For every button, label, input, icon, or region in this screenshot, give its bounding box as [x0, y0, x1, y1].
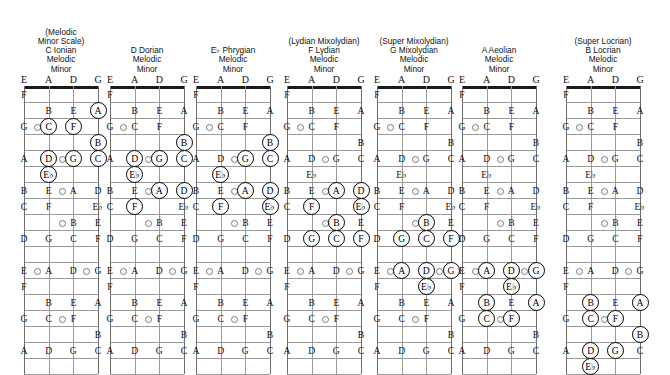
- note-G-f15: G: [279, 313, 295, 324]
- scale-note-label-G-f17: G: [606, 345, 624, 356]
- scale-note-label-Eb-f18: E♭: [582, 361, 600, 372]
- note-E-f2: E: [328, 105, 344, 116]
- scale-note-label-A-f14: A: [631, 297, 649, 308]
- note-C-f15: C: [394, 313, 410, 324]
- note-B-f2: B: [304, 105, 320, 116]
- open-string-label-E: E: [370, 74, 384, 85]
- fret-line-11: [566, 262, 640, 263]
- open-string-label-E: E: [189, 74, 203, 85]
- note-A-f17: A: [188, 345, 204, 356]
- scale-note-label-G-f12: G: [442, 265, 460, 276]
- fret-line-5: [462, 166, 536, 167]
- note-C-f8: C: [558, 201, 574, 212]
- fret-marker-12-5: [625, 268, 632, 275]
- note-G-f15: G: [369, 313, 385, 324]
- note-G-f15: G: [16, 313, 32, 324]
- note-D-f17: D: [127, 345, 143, 356]
- fret-marker-12-4: [34, 268, 41, 275]
- note-C-f17: C: [632, 345, 648, 356]
- note-B-f9: B: [151, 217, 167, 228]
- note-F-f1: F: [188, 89, 204, 100]
- open-string-label-A: A: [42, 74, 56, 85]
- fret-marker-5-1: [322, 156, 329, 163]
- note-B-f9: B: [237, 217, 253, 228]
- note-A-f17: A: [558, 345, 574, 356]
- note-E-f7: E: [304, 185, 320, 196]
- scale-note-label-C-f10: C: [327, 233, 345, 244]
- scale-note-label-D-f12: D: [417, 265, 435, 276]
- note-C-f10: C: [607, 233, 623, 244]
- note-F-f1: F: [279, 89, 295, 100]
- scale-note-label-F-f8: F: [126, 201, 144, 212]
- note-B-f2: B: [127, 105, 143, 116]
- scale-note-label-D-f5: D: [126, 153, 144, 164]
- nut: [462, 86, 536, 89]
- note-G-f3: G: [279, 121, 295, 132]
- note-F-f13: F: [454, 281, 470, 292]
- scale-note-label-Eb-f8: E♭: [352, 201, 370, 212]
- fret-line-9: [462, 230, 536, 231]
- note-G-f17: G: [237, 345, 253, 356]
- note-B-f14: B: [41, 297, 57, 308]
- fret-marker-9-3: [601, 220, 608, 227]
- note-G-f15: G: [558, 313, 574, 324]
- note-D-f10: D: [279, 233, 295, 244]
- note-D-f5: D: [583, 153, 599, 164]
- note-F-f13: F: [102, 281, 118, 292]
- note-D-f7: D: [632, 185, 648, 196]
- note-G-f10: G: [213, 233, 229, 244]
- note-G-f15: G: [454, 313, 470, 324]
- scale-note-label-G-f5: G: [150, 153, 168, 164]
- fret-marker-9-3: [145, 220, 152, 227]
- note-C-f15: C: [213, 313, 229, 324]
- scale-note-label-B-f16: B: [631, 329, 649, 340]
- note-F-f1: F: [369, 89, 385, 100]
- note-E-f14: E: [237, 297, 253, 308]
- note-C-f10: C: [151, 233, 167, 244]
- note-B-f2: B: [583, 105, 599, 116]
- fret-marker-12-4: [297, 268, 304, 275]
- note-F-f10: F: [632, 233, 648, 244]
- fret-marker-7-2: [59, 188, 66, 195]
- fret-marker-3-0: [297, 124, 304, 131]
- scale-note-label-D-f5: D: [40, 153, 58, 164]
- note-E-f7: E: [479, 185, 495, 196]
- scale-note-label-F-f3: F: [64, 121, 82, 132]
- note-D-f5: D: [213, 153, 229, 164]
- scale-note-label-G-f5: G: [236, 153, 254, 164]
- open-string-label-E: E: [103, 74, 117, 85]
- note-B-f2: B: [213, 105, 229, 116]
- note-A-f12: A: [41, 265, 57, 276]
- fret-line-15: [462, 326, 536, 327]
- note-D-f10: D: [16, 233, 32, 244]
- note-C-f10: C: [237, 233, 253, 244]
- note-C-f10: C: [65, 233, 81, 244]
- fret-marker-15-6: [322, 316, 329, 323]
- note-C-f3: C: [583, 121, 599, 132]
- note-C-f5: C: [632, 153, 648, 164]
- scale-note-label-C-f5: C: [261, 153, 279, 164]
- fret-marker-7-2: [497, 188, 504, 195]
- scale-note-label-B-f4: B: [175, 137, 193, 148]
- fret-marker-15-6: [145, 316, 152, 323]
- scale-note-label-Eb-f6: E♭: [212, 169, 230, 180]
- note-E-f7: E: [583, 185, 599, 196]
- nut: [566, 86, 640, 89]
- note-F-f15: F: [237, 313, 253, 324]
- open-string-label-G: G: [633, 74, 647, 85]
- note-E-f12: E: [279, 265, 295, 276]
- scale-note-label-A-f7: A: [150, 185, 168, 196]
- fret-marker-9-3: [497, 220, 504, 227]
- open-string-label-A: A: [128, 74, 142, 85]
- scale-note-label-C-f5: C: [89, 153, 107, 164]
- scale-note-label-G-f10: G: [393, 233, 411, 244]
- fret-line-6: [566, 182, 640, 183]
- scale-note-label-A-f14: A: [527, 297, 545, 308]
- note-G-f10: G: [127, 233, 143, 244]
- fret-line-4: [566, 150, 640, 151]
- scale-note-label-F-f15: F: [502, 313, 520, 324]
- note-G-f12: G: [632, 265, 648, 276]
- note-A-f5: A: [369, 153, 385, 164]
- note-C-f10: C: [503, 233, 519, 244]
